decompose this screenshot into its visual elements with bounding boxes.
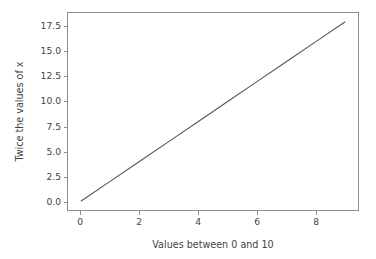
x-tick-mark: [139, 211, 140, 215]
x-tick-label: 0: [65, 217, 95, 227]
y-tick-label: 10.0: [27, 96, 61, 106]
x-tick-label: 2: [124, 217, 154, 227]
x-tick-label: 8: [301, 217, 331, 227]
x-tick-label: 6: [242, 217, 272, 227]
y-tick-label: 17.5: [27, 21, 61, 31]
x-tick-mark: [198, 211, 199, 215]
y-tick-label: 7.5: [27, 122, 61, 132]
x-tick-mark: [80, 211, 81, 215]
y-tick-label: 0.0: [27, 197, 61, 207]
x-tick-mark: [316, 211, 317, 215]
x-axis-label: Values between 0 and 10: [67, 239, 359, 251]
y-tick-label: 5.0: [27, 147, 61, 157]
x-tick-mark: [257, 211, 258, 215]
line-plot-canvas: [68, 13, 358, 210]
plot-axes-frame: [67, 12, 359, 211]
y-tick-label: 12.5: [27, 71, 61, 81]
y-axis-label: Twice the values of x: [14, 12, 26, 211]
data-series-line: [81, 22, 345, 201]
y-tick-label: 15.0: [27, 46, 61, 56]
matplotlib-figure: 0.02.55.07.510.012.515.017.5 02468 Value…: [0, 0, 376, 259]
x-tick-label: 4: [183, 217, 213, 227]
y-tick-label: 2.5: [27, 172, 61, 182]
